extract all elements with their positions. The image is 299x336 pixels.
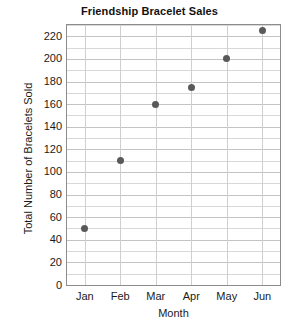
chart-title: Friendship Bracelet Sales [0,5,299,18]
data-point [223,55,230,62]
data-point [188,84,195,91]
y-axis-title: Total Number of Bracelets Sold [22,28,35,290]
y-axis-title-wrapper: Total Number of Bracelets Sold [0,0,20,336]
data-point [259,27,266,34]
data-point [81,225,88,232]
plot-area [66,24,281,286]
data-point [117,157,124,164]
x-axis-tick-label: Jun [239,290,285,303]
scatter-chart: Friendship Bracelet Sales 02040608010012… [0,0,299,336]
data-point [152,101,159,108]
x-axis-tick-labels: JanFebMarAprMayJun [66,290,281,306]
x-axis-title: Month [66,307,281,320]
gridline-horizontal [67,285,280,286]
data-points-layer [67,25,280,285]
